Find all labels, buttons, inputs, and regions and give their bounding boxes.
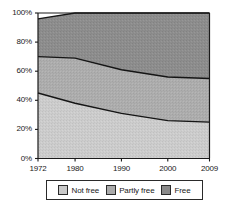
legend-item-free[interactable]: Free xyxy=(161,185,190,195)
legend-swatch-icon xyxy=(58,185,68,195)
y-tick-label: 60% xyxy=(2,66,32,75)
stacked-area-chart: 0%20%40%60%80%100% 19721980199020002009 … xyxy=(0,0,248,206)
area-bands xyxy=(38,13,210,159)
x-tick-label: 2000 xyxy=(151,164,185,173)
x-tick-label: 1980 xyxy=(58,164,92,173)
y-tick-label: 100% xyxy=(2,8,32,17)
legend-label: Not free xyxy=(71,186,99,195)
x-tick-label: 2009 xyxy=(193,164,227,173)
y-tick-label: 80% xyxy=(2,37,32,46)
x-tick-label: 1972 xyxy=(21,164,55,173)
legend-item-not-free[interactable]: Not free xyxy=(58,185,99,195)
legend-swatch-icon xyxy=(161,185,171,195)
y-tick-label: 40% xyxy=(2,95,32,104)
legend-label: Free xyxy=(174,186,190,195)
plot-canvas xyxy=(0,0,248,206)
legend-label: Partly free xyxy=(119,186,154,195)
y-tick-label: 20% xyxy=(2,124,32,133)
chart-legend: Not freePartly freeFree xyxy=(46,180,203,200)
legend-swatch-icon xyxy=(106,185,116,195)
legend-item-partly-free[interactable]: Partly free xyxy=(106,185,154,195)
y-tick-label: 0% xyxy=(2,154,32,163)
x-tick-label: 1990 xyxy=(104,164,138,173)
